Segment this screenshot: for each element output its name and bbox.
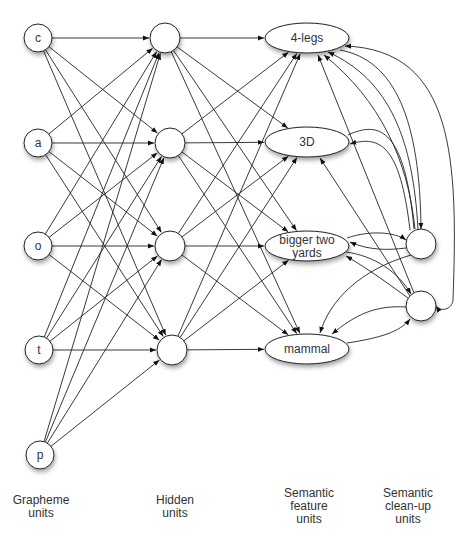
connection-arrow (182, 52, 289, 134)
connection-arrow (49, 153, 157, 238)
cleanup-unit (406, 229, 436, 259)
unit-label: a (35, 136, 42, 150)
connection-arrow (182, 255, 288, 335)
connection-arrow (184, 260, 289, 341)
connection-arrow (187, 349, 264, 350)
label-line: units (139, 507, 211, 520)
connection-arrow (45, 158, 163, 442)
unit-label: p (37, 448, 44, 462)
feature-label-line2: yards (292, 246, 321, 260)
hidden-unit (157, 335, 187, 365)
connection-arrow (44, 53, 159, 337)
connection-arrow (46, 157, 161, 339)
feature-label: bigger two (279, 233, 335, 247)
grapheme-unit-a: a (24, 129, 52, 157)
connection-arrow (182, 156, 288, 237)
grapheme-unit-c: c (24, 24, 52, 52)
feature-label: 4-legs (291, 31, 324, 45)
hidden-unit (155, 231, 185, 261)
label-line: units (372, 513, 444, 526)
semantic-feature-bigger-two: bigger twoyards (265, 231, 349, 261)
label-line: units (273, 513, 345, 526)
hidden-unit (150, 23, 180, 53)
network-diagram: caotp4-legs3Dbigger twoyardsmammal (0, 0, 469, 536)
grapheme-unit-o: o (24, 232, 52, 260)
grapheme-unit-t: t (25, 336, 53, 364)
connection-arrow (50, 256, 158, 341)
semantic-feature-mammal: mammal (265, 334, 349, 364)
feature-label: mammal (284, 342, 330, 356)
connection-arrow (49, 48, 153, 134)
grapheme-unit-p: p (26, 441, 54, 469)
cleanup-unit (406, 291, 436, 321)
connection-arrow (49, 152, 157, 237)
unit-label: c (35, 31, 41, 45)
connection-arrow (177, 47, 288, 128)
hidden-unit (155, 128, 185, 158)
semantic-feature-4-legs: 4-legs (265, 23, 349, 53)
label-line: units (5, 507, 77, 520)
connection-arrow (51, 360, 160, 446)
semantic-feature-3D: 3D (265, 127, 349, 157)
feature-label: 3D (299, 135, 315, 149)
connection-arrow (44, 53, 160, 441)
unit-label: o (35, 239, 42, 253)
label-hidden-units: Hidden units (139, 494, 211, 520)
label-semantic-cleanup-units: Semantic clean-up units (372, 487, 444, 526)
connection-arrow (182, 152, 288, 232)
label-grapheme-units: Grapheme units (5, 494, 77, 520)
connection-arrow (185, 142, 264, 143)
label-semantic-feature-units: Semantic feature units (273, 487, 345, 526)
